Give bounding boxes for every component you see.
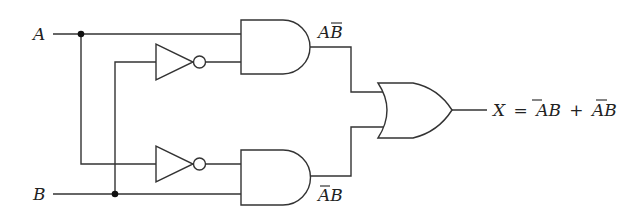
not-gate-2 bbox=[156, 146, 241, 182]
not-gate-1 bbox=[156, 44, 241, 80]
junction-b-dot bbox=[112, 191, 119, 198]
input-a-label: A bbox=[31, 24, 45, 44]
input-a-wire bbox=[53, 34, 241, 164]
or-gate bbox=[378, 83, 487, 138]
and-gate-2 bbox=[241, 127, 388, 205]
xor-logic-circuit: A B AB AB bbox=[0, 0, 631, 214]
inverter-bubble-icon bbox=[194, 56, 206, 68]
svg-text:AB: AB bbox=[316, 185, 343, 205]
output-expression: X = AB + AB bbox=[491, 100, 617, 120]
svg-text:X = AB +: X = AB + AB bbox=[491, 100, 617, 120]
and2-output-label: AB bbox=[316, 185, 343, 205]
and1-output-label: AB bbox=[316, 22, 343, 42]
svg-text:AB: AB bbox=[316, 22, 343, 42]
input-b-label: B bbox=[32, 184, 46, 204]
inverter-bubble-icon bbox=[194, 158, 206, 170]
junction-a-dot bbox=[78, 31, 85, 38]
and-gate-1 bbox=[241, 20, 388, 92]
